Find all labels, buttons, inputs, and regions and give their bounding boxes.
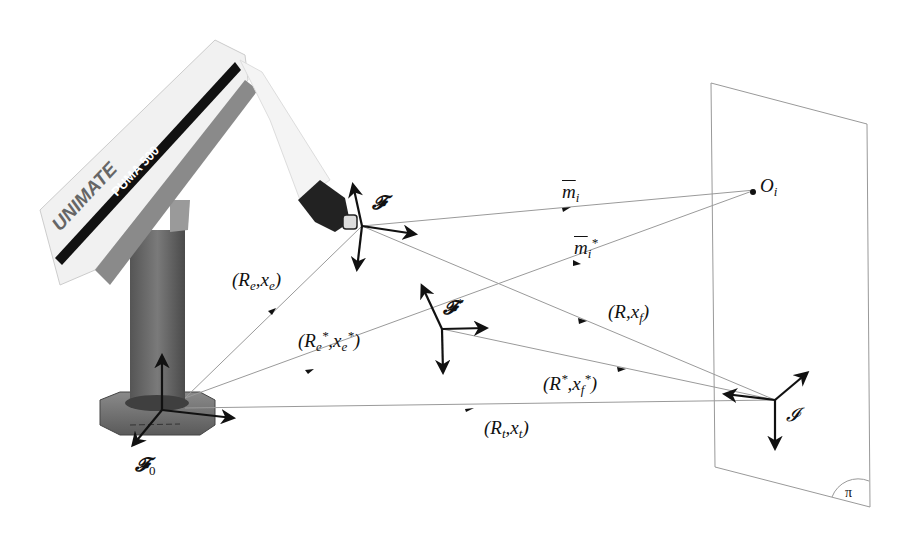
image-plane (711, 83, 870, 507)
ray-effector-point (362, 190, 755, 226)
label-frame-image: 𝓘 (786, 405, 799, 424)
label-transform-effector-image: (R,xf) (608, 302, 649, 324)
ray-base-image (185, 400, 775, 408)
label-transform-base-image: (Rt,xt) (484, 418, 529, 440)
label-frame-effector: 𝓕 (372, 193, 386, 212)
label-transform-desired-image: (R*,xf*) (543, 372, 597, 396)
label-transform-base-desired: (Re*,xe*) (298, 329, 360, 353)
label-ray-desired: mi* (574, 236, 598, 260)
robot-forearm (240, 60, 330, 200)
label-frame-base: 𝓕0 (135, 455, 156, 477)
label-plane-pi: π (845, 486, 852, 500)
label-ray-current: mi (562, 182, 579, 204)
label-point-o-i: Oi (760, 176, 777, 198)
label-transform-base-effector: (Re,xe) (232, 270, 281, 292)
robot-puma: UNIMATE PUMA 500 (40, 40, 357, 435)
robot-column (130, 230, 185, 405)
label-frame-desired: 𝓕* (443, 296, 464, 317)
transform-rays (185, 190, 775, 408)
ray-base-desired-extended (185, 190, 755, 398)
point-o-i (750, 189, 756, 195)
ray-desired-image (442, 329, 775, 400)
